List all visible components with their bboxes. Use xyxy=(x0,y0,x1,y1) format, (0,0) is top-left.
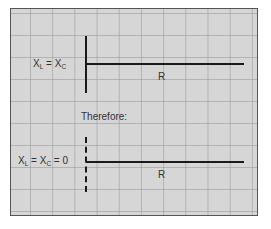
equals-sign: = xyxy=(43,58,54,69)
diagram-panel xyxy=(10,8,258,216)
equals-sign: = xyxy=(28,155,39,166)
subscript-l: L xyxy=(40,63,44,70)
resistance-label: R xyxy=(158,169,165,180)
bottom-equation: XL = XC = 0 xyxy=(18,155,68,166)
zero-value: = 0 xyxy=(51,155,68,166)
resistance-horizontal-line xyxy=(86,161,244,163)
subscript-c: C xyxy=(46,160,51,167)
x-symbol: X xyxy=(18,155,25,166)
top-equation: XL = XC xyxy=(33,58,66,69)
subscript-c: C xyxy=(61,63,66,70)
reactance-dashed-line xyxy=(85,137,87,192)
therefore-caption: Therefore: xyxy=(81,111,127,122)
resistance-horizontal-line xyxy=(86,63,244,65)
resistance-label: R xyxy=(158,71,165,82)
subscript-l: L xyxy=(25,160,29,167)
x-symbol: X xyxy=(33,58,40,69)
